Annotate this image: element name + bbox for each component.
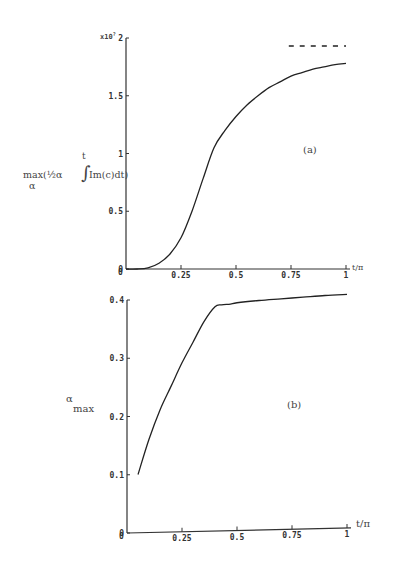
chart-a-ylabel-integrand: Im(c)dt) (89, 169, 128, 180)
y-tick-label: 1 (118, 150, 123, 159)
origin-label: 0 (119, 532, 124, 541)
x-tick-label: 0.75 (281, 271, 300, 280)
x-tick-label: 0.25 (171, 271, 190, 280)
chart-a-panel-label: (a) (303, 144, 317, 155)
y-tick-label: 0.4 (110, 296, 125, 305)
chart-b-axes (127, 300, 351, 533)
y-tick-label: 0.5 (109, 207, 124, 216)
origin-label: 0 (118, 268, 123, 277)
y-tick-label: 0.2 (110, 413, 125, 422)
figure-canvas: 00.511.520.250.50.7510 00.10.20.30.40.25… (0, 0, 394, 565)
chart-a-ylabel-sub: α (29, 180, 35, 191)
chart-b-ylabel-main: α (66, 393, 73, 404)
x-tick-label: 1 (344, 271, 349, 280)
series-alpha_max (138, 294, 347, 474)
y-tick-label: 0.1 (110, 471, 125, 480)
y-tick-label: 0.3 (110, 354, 125, 363)
chart-a-multiplier: x10? (100, 31, 116, 41)
chart-b: 00.10.20.30.40.250.50.7510 (110, 294, 351, 542)
chart-a-series (126, 46, 346, 269)
chart-a-ylabel-upper-limit: t (82, 151, 86, 161)
x-tick-label: 0.25 (172, 534, 191, 543)
chart-a: 00.511.520.250.50.7510 (109, 34, 350, 280)
x-tick-label: 0.75 (282, 531, 301, 540)
chart-b-ylabel-sub: max (73, 403, 94, 414)
chart-b-series (138, 294, 347, 474)
y-tick-label: 1.5 (109, 92, 124, 101)
multiplier-exponent: ? (113, 31, 116, 37)
y-tick-label: 2 (118, 34, 123, 43)
series-solution (126, 63, 346, 269)
chart-b-ticks: 00.10.20.30.40.250.50.7510 (110, 296, 350, 543)
chart-b-xlabel: t/π (356, 518, 370, 529)
chart-b-panel-label: (b) (287, 399, 301, 410)
x-tick-label: 0.5 (229, 271, 244, 280)
chart-a-ylabel-main: max(½α (23, 169, 62, 180)
multiplier-text: x10 (100, 33, 113, 41)
chart-a-ticks: 00.511.520.250.50.7510 (109, 34, 349, 280)
chart-a-xlabel: t/π (352, 263, 363, 272)
x-tick-label: 0.5 (230, 533, 245, 542)
x-tick-label: 1 (345, 530, 350, 539)
